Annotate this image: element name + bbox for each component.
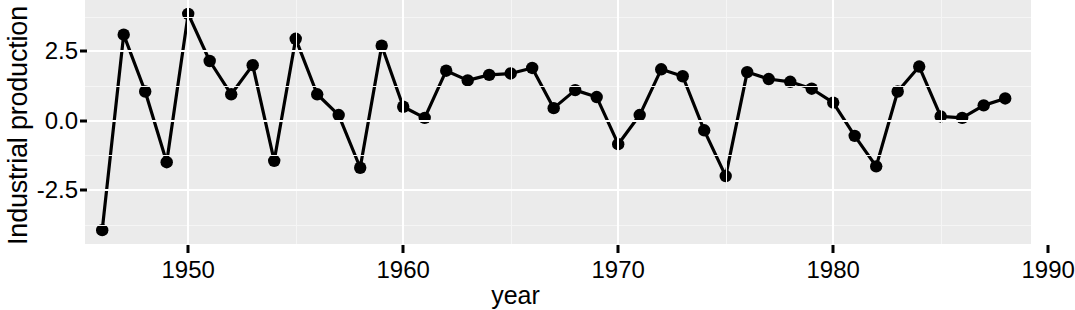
data-point — [913, 60, 925, 72]
y-tick-label: -2.5 — [8, 176, 78, 204]
data-series-svg — [85, 0, 1031, 244]
gridline-minor-vertical — [726, 0, 727, 244]
data-point — [741, 66, 753, 78]
data-point — [419, 112, 431, 124]
x-tick-mark — [832, 245, 835, 253]
data-point — [118, 28, 130, 40]
data-point — [526, 62, 538, 74]
series-line — [102, 14, 1005, 230]
data-point — [225, 88, 237, 100]
y-tick-mark — [80, 119, 87, 122]
data-point — [247, 59, 259, 71]
gridline-major-vertical — [832, 0, 834, 244]
x-tick-mark — [617, 245, 620, 253]
data-point — [956, 112, 968, 124]
data-point — [483, 69, 495, 81]
data-point — [268, 155, 280, 167]
data-point — [698, 124, 710, 136]
gridline-minor-horizontal — [85, 155, 1031, 156]
x-tick-label: 1960 — [376, 256, 429, 284]
x-tick-label: 1950 — [161, 256, 214, 284]
data-point — [806, 83, 818, 95]
gridline-minor-horizontal — [85, 17, 1031, 18]
plot-panel — [85, 0, 1031, 244]
data-point — [161, 156, 173, 168]
data-point — [440, 65, 452, 77]
data-point — [354, 162, 366, 174]
gridline-major-horizontal — [85, 189, 1031, 191]
data-point — [311, 88, 323, 100]
gridline-major-horizontal — [85, 50, 1031, 52]
data-point — [892, 85, 904, 97]
data-point — [655, 63, 667, 75]
gridline-minor-horizontal — [85, 86, 1031, 87]
y-tick-label: 2.5 — [8, 37, 78, 65]
gridline-minor-horizontal — [85, 225, 1031, 226]
x-tick-mark — [402, 245, 405, 253]
gridline-major-horizontal — [85, 120, 1031, 122]
gridline-major-vertical — [617, 0, 619, 244]
gridline-major-vertical — [187, 0, 189, 244]
data-point — [870, 160, 882, 172]
data-point — [462, 74, 474, 86]
data-point — [548, 102, 560, 114]
y-tick-mark — [80, 50, 87, 53]
data-point — [677, 70, 689, 82]
gridline-minor-vertical — [941, 0, 942, 244]
x-tick-label: 1970 — [591, 256, 644, 284]
gridline-minor-vertical — [296, 0, 297, 244]
data-point — [591, 91, 603, 103]
x-tick-label: 1990 — [1021, 256, 1074, 284]
data-point — [204, 55, 216, 67]
gridline-minor-vertical — [511, 0, 512, 244]
y-tick-mark — [80, 188, 87, 191]
data-point — [139, 85, 151, 97]
data-point — [978, 99, 990, 111]
data-point — [999, 92, 1011, 104]
x-axis-title: year — [0, 281, 1031, 310]
data-point — [763, 73, 775, 85]
data-point — [849, 130, 861, 142]
y-axis-tick-labels: -2.50.02.5 — [8, 0, 78, 250]
gridline-major-vertical — [402, 0, 404, 244]
x-tick-mark — [187, 245, 190, 253]
y-tick-label: 0.0 — [8, 107, 78, 135]
x-tick-label: 1980 — [806, 256, 859, 284]
x-tick-mark — [1047, 245, 1050, 253]
data-point — [96, 224, 108, 236]
